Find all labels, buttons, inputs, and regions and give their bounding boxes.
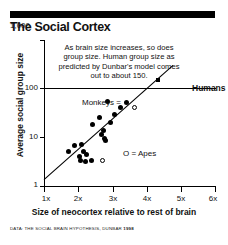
legend-monkeys: Monkeys = (82, 98, 129, 107)
data-point-monkeys (103, 138, 108, 143)
humans-label: Humans (192, 84, 226, 93)
filled-circle-icon (124, 100, 129, 105)
data-point-monkeys (84, 152, 89, 157)
data-point-monkeys (79, 142, 84, 147)
source-credit: DATA: THE SOCIAL BRAIN HYPOTHESIS, DUNBA… (10, 226, 134, 232)
data-point-apes (100, 158, 105, 163)
x-tick-label-3x: 3x (101, 194, 125, 203)
title-rule-bar (10, 11, 215, 18)
y-tick-label-1: 1 (0, 181, 38, 189)
data-point-monkeys (101, 128, 106, 133)
data-point-monkeys (108, 120, 113, 125)
x-axis-line (44, 186, 216, 187)
x-tick-label-6x: 6x (201, 194, 225, 203)
data-point-monkeys (83, 159, 88, 164)
y-tick-label-1000: 1,000 (0, 22, 48, 30)
source-credit-year: 1998 (123, 226, 134, 231)
x-tick-label-1x: 1x (34, 194, 58, 203)
x-tick-label-2x: 2x (66, 194, 90, 203)
data-point-monkeys (72, 143, 77, 148)
x-tick-mark-3x (113, 187, 114, 192)
y-tick-mark-1000 (40, 40, 45, 41)
chart-figure: The Social Cortex 1,000 100 10 1 Average… (0, 0, 228, 245)
source-credit-text: DATA: THE SOCIAL BRAIN HYPOTHESIS, DUNBA… (10, 226, 122, 231)
legend-monkeys-label: Monkeys = (82, 98, 121, 107)
x-tick-label-4x: 4x (135, 194, 159, 203)
x-tick-mark-1x (44, 187, 45, 192)
y-axis-title: Average social group size (15, 40, 25, 170)
legend-apes: O = Apes (123, 149, 156, 158)
data-point-monkeys (97, 115, 102, 120)
x-tick-label-5x: 5x (169, 194, 193, 203)
y-axis-line (44, 40, 45, 187)
x-tick-mark-2x (78, 187, 79, 192)
data-point-humans (156, 78, 160, 82)
data-point-monkeys (89, 158, 94, 163)
x-tick-mark-6x (215, 187, 216, 192)
y-tick-mark-100 (40, 88, 45, 89)
annotation-text: As brain size increases, so does group s… (55, 43, 183, 80)
data-point-monkeys (66, 149, 71, 154)
data-point-monkeys (90, 122, 95, 127)
data-point-apes (132, 105, 137, 110)
x-tick-mark-4x (147, 187, 148, 192)
x-tick-mark-5x (181, 187, 182, 192)
data-point-monkeys (112, 112, 117, 117)
y-tick-mark-10 (40, 137, 45, 138)
gridline-100 (44, 88, 216, 89)
x-axis-title: Size of neocortex relative to rest of br… (0, 207, 228, 217)
